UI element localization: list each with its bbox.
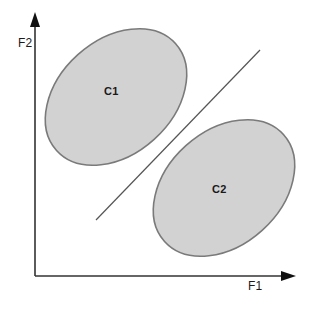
figure-canvas: F2 F1 C1 C2 xyxy=(0,0,315,310)
x-axis-label: F1 xyxy=(248,279,262,293)
figure-svg xyxy=(0,0,315,310)
y-axis-group xyxy=(30,12,40,276)
y-axis-label: F2 xyxy=(18,36,32,50)
cluster-label-c2: C2 xyxy=(212,183,227,195)
arrow-up-icon xyxy=(30,12,40,27)
arrow-right-icon xyxy=(281,271,296,281)
cluster-label-c1: C1 xyxy=(104,85,119,97)
